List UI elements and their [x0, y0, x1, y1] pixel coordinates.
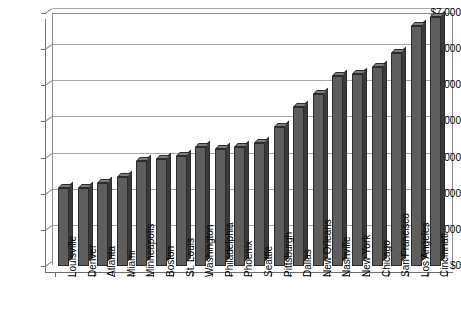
- x-axis-label: Seattle: [264, 246, 274, 277]
- bar: [430, 17, 441, 266]
- bar: [293, 107, 304, 266]
- x-axis-label: Pittsburgh: [284, 232, 294, 277]
- x-axis-label: Phoenix: [244, 241, 254, 277]
- bar-side-face: [441, 10, 445, 261]
- x-axis-label: Cincinnati: [440, 233, 450, 277]
- x-axis-label: Minneapolis: [146, 224, 156, 277]
- bar-chart: $7,000$6,000$5,000$4,000$3,000$2,000$1,0…: [0, 0, 461, 332]
- x-axis-label: New York: [362, 235, 372, 277]
- x-axis-label: Boston: [166, 246, 176, 277]
- y-axis-tick: [41, 13, 46, 14]
- y-axis-line: [45, 19, 46, 272]
- gridline: [53, 44, 454, 45]
- x-axis-label: Chicago: [382, 240, 392, 277]
- bar-side-face: [343, 70, 347, 261]
- y-axis-tick: [41, 266, 46, 267]
- bar-side-face: [363, 68, 367, 261]
- x-axis-label: Los Angeles: [421, 223, 431, 278]
- bar-side-face: [128, 171, 132, 261]
- x-axis-label: New Orleans: [323, 219, 333, 277]
- bar: [372, 67, 383, 266]
- x-axis-label: Washington: [205, 225, 215, 277]
- x-axis-label: Nashville: [342, 236, 352, 277]
- bar-side-face: [383, 61, 387, 261]
- y-axis-tick: [41, 230, 46, 231]
- y-axis-tick: [41, 158, 46, 159]
- x-axis-label: Miami: [127, 250, 137, 277]
- y-axis-tick: [41, 121, 46, 122]
- bar-side-face: [167, 153, 171, 261]
- y-axis-tick: [41, 49, 46, 50]
- x-axis-label: Dallas: [303, 249, 313, 277]
- y-axis-tick: [41, 85, 46, 86]
- x-axis-label: Louisville: [68, 236, 78, 277]
- x-axis-label: Denver: [88, 245, 98, 277]
- x-axis-label: Philadelphia: [225, 223, 235, 278]
- x-axis-label: Atlanta: [107, 246, 117, 277]
- x-axis-label: St. Louis: [186, 238, 196, 277]
- bar-side-face: [265, 137, 269, 261]
- x-axis-tick: [55, 272, 56, 277]
- bar-side-face: [304, 101, 308, 261]
- gridline: [53, 8, 454, 9]
- x-axis-label: San Francisco: [401, 213, 411, 277]
- y-axis-tick: [41, 194, 46, 195]
- chart-back-wall: [45, 19, 52, 272]
